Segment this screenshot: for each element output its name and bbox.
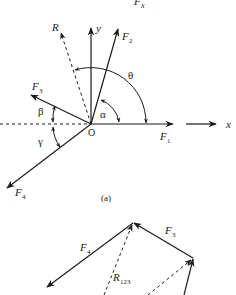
resultant-r-dashed xyxy=(61,33,91,124)
svg-text:4: 4 xyxy=(22,193,26,201)
f3-label: F xyxy=(31,80,39,92)
origin-label: O xyxy=(88,127,95,138)
y-axis-label: y xyxy=(95,22,101,34)
f1-label: F xyxy=(159,130,167,142)
svg-text:4: 4 xyxy=(87,248,91,256)
f4-vector xyxy=(7,124,91,188)
x-axis-label: x xyxy=(225,118,231,130)
part-a-labels: O x y F 1 F 2 F 3 F 4 R θ α β γ (a) xyxy=(14,21,231,203)
svg-text:1: 1 xyxy=(167,137,171,145)
f4-polygon-label: F xyxy=(79,241,87,253)
force-diagram: F x O x y F 1 F 2 F 3 F 4 R θ α β γ (a) xyxy=(0,0,236,295)
f2-label: F xyxy=(121,30,129,42)
alpha-label: α xyxy=(100,108,106,120)
r12-dashed xyxy=(148,260,191,295)
f3-polygon-vector xyxy=(134,223,193,258)
svg-text:123: 123 xyxy=(120,278,131,286)
svg-text:3: 3 xyxy=(172,231,176,239)
part-a xyxy=(0,28,216,188)
gamma-arc xyxy=(53,127,60,147)
beta-label: β xyxy=(38,105,44,117)
resultant-label: R xyxy=(51,21,59,33)
theta-label: θ xyxy=(128,69,133,81)
f4-label: F xyxy=(14,186,22,198)
top-fx-label: F x xyxy=(133,0,145,10)
f3-polygon-label: F xyxy=(164,224,172,236)
part-b-labels: F 4 F 3 R 123 xyxy=(79,224,176,286)
svg-text:3: 3 xyxy=(39,87,43,95)
svg-text:F: F xyxy=(133,0,141,7)
r123-label: R xyxy=(112,271,120,283)
svg-text:2: 2 xyxy=(129,37,133,45)
svg-text:x: x xyxy=(140,1,145,10)
beta-arc xyxy=(53,106,55,122)
caption-a: (a) xyxy=(101,193,111,203)
theta-arc xyxy=(75,68,146,123)
gamma-label: γ xyxy=(37,135,43,147)
